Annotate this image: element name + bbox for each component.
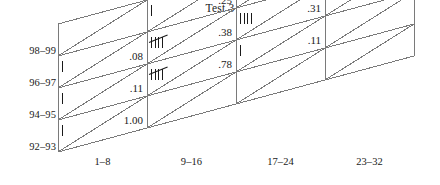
tally-mark — [62, 93, 63, 104]
cell-proportion-value: 1.00 — [85, 114, 143, 126]
tally-marks — [151, 4, 158, 16]
tally-group — [240, 44, 244, 56]
tally-mark — [62, 61, 63, 72]
tally-group — [151, 36, 166, 48]
tally-group — [240, 12, 255, 24]
tally-marks — [62, 92, 69, 104]
tally-mark — [62, 125, 63, 136]
tally-marks — [151, 36, 169, 48]
tally-marks — [151, 68, 169, 80]
cell-proportion-value: .78 — [174, 58, 232, 70]
cell-proportion-value: .11 — [85, 82, 143, 94]
tally-group — [151, 4, 155, 16]
tally-marks — [62, 60, 69, 72]
tally-mark — [151, 5, 152, 16]
tally-group — [62, 92, 66, 104]
tally-group — [151, 68, 166, 80]
tally-marks — [62, 124, 69, 136]
tally-mark — [240, 13, 241, 24]
tally-mark — [244, 13, 245, 24]
tally-mark — [251, 13, 252, 24]
cell-proportion-value: .25 — [174, 0, 232, 6]
tally-group — [62, 60, 66, 72]
tally-mark — [247, 13, 248, 24]
cell-proportion-value: .11 — [263, 34, 321, 46]
tally-group — [62, 124, 66, 136]
cell-proportion-value: .38 — [174, 26, 232, 38]
tally-mark — [240, 45, 241, 56]
tally-mark — [162, 69, 163, 80]
tally-marks — [240, 12, 258, 24]
test-3-tally-grid-figure: Test 3 98–9996–9794–9592–93 1–89–1617–24… — [0, 0, 440, 185]
tally-marks — [240, 44, 247, 56]
cell-proportion-value: .08 — [85, 50, 143, 62]
cell-proportion-value: .31 — [263, 2, 321, 14]
tally-mark — [162, 37, 163, 48]
